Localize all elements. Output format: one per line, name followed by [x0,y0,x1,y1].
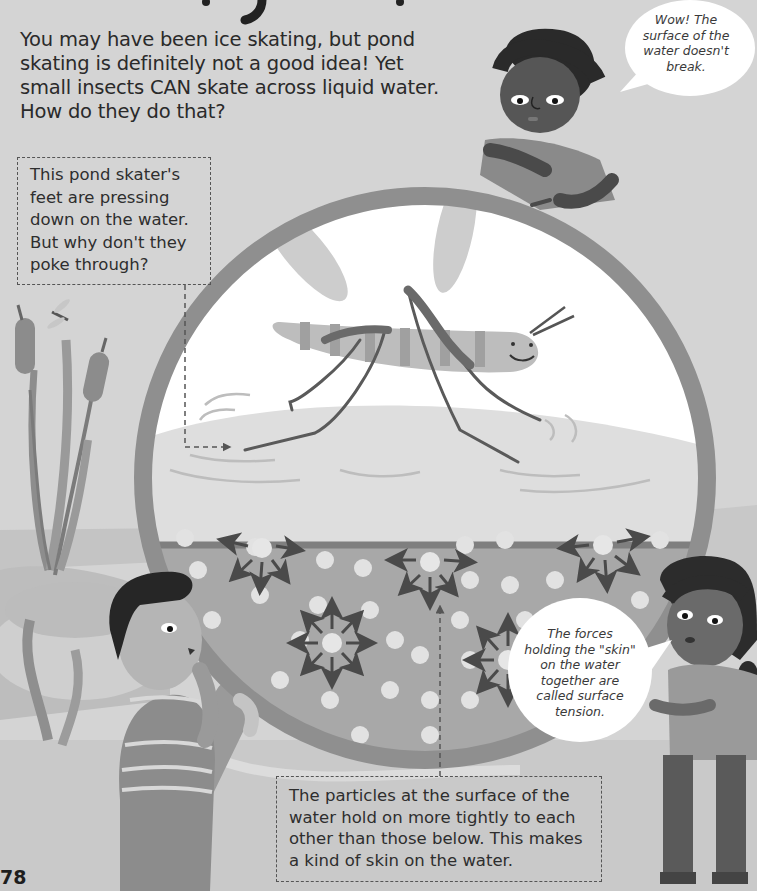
speech-text-girl: The forces holding the "skin" on the wat… [516,626,644,719]
callout-line: water hold on more tightly to each [289,807,601,829]
speech-line: surface of the [624,28,748,44]
speech-line: Wow! The [624,12,748,28]
speech-line: holding the "skin" [516,642,644,658]
speech-line: The forces [516,626,644,642]
callout-line: a kind of skin on the water. [289,850,601,872]
book-page: You may have been ice skating, but pond … [0,0,757,891]
intro-paragraph: You may have been ice skating, but pond … [20,28,490,124]
boy-top [480,29,615,210]
callout-line: But why don't they [30,232,210,255]
callout-line: feet are pressing [30,187,210,210]
speech-line: tension. [516,704,644,720]
callout-line: This pond skater's [30,164,210,187]
title-fragment [202,0,404,20]
speech-line: together are [516,673,644,689]
callout-line: down on the water. [30,209,210,232]
intro-line: How do they do that? [20,100,490,124]
callout-line: The particles at the surface of the [289,785,601,807]
intro-line: You may have been ice skating, but pond [20,28,490,52]
speech-line: break. [624,59,748,75]
speech-line: on the water [516,657,644,673]
speech-line: called surface [516,688,644,704]
speech-line: water doesn't [624,43,748,59]
speech-text-top-boy: Wow! The surface of the water doesn't br… [624,12,748,74]
page-number: 78 [0,866,26,888]
dragonfly [46,297,72,330]
intro-line: skating is definitely not a good idea! Y… [20,52,490,76]
intro-line: small insects CAN skate across liquid wa… [20,76,490,100]
illustration [0,0,757,891]
callout-particles: The particles at the surface of the wate… [276,776,602,882]
callout-line: other than those below. This makes [289,828,601,850]
callout-feet: This pond skater's feet are pressing dow… [17,157,211,285]
callout-line: poke through? [30,254,210,277]
